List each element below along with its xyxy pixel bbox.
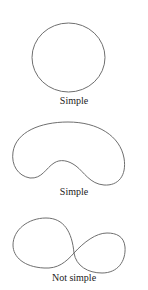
circle-curve [32, 23, 105, 92]
curves-diagram [0, 0, 148, 290]
kidney-label: Simple [0, 186, 148, 198]
figure-eight-curve [13, 218, 125, 273]
figure-eight-label: Not simple [0, 272, 148, 284]
circle-label: Simple [0, 95, 148, 107]
kidney-curve [13, 122, 125, 185]
